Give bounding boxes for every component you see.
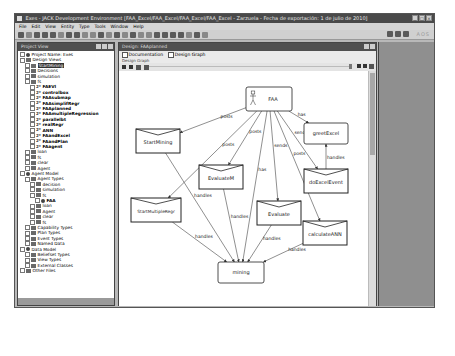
node-EvaluateM[interactable]: EvaluateM (199, 165, 243, 189)
expand-toggle-icon[interactable] (30, 139, 35, 144)
expand-toggle-icon[interactable] (25, 68, 30, 73)
menu-view[interactable]: View (45, 23, 56, 30)
expand-toggle-icon[interactable] (20, 52, 25, 57)
expand-toggle-icon[interactable] (30, 187, 35, 192)
node-greetExcel[interactable]: greetExcel (304, 123, 348, 144)
copy-icon[interactable] (66, 32, 72, 38)
export-icon[interactable] (369, 64, 374, 69)
expand-toggle-icon[interactable] (30, 133, 35, 138)
expand-toggle-icon[interactable] (30, 90, 35, 95)
document-icon[interactable] (178, 32, 184, 38)
save-icon[interactable] (34, 32, 40, 38)
edge-posts[interactable] (180, 108, 246, 133)
expand-toggle-icon[interactable] (20, 268, 25, 273)
expand-toggle-icon[interactable] (25, 263, 30, 268)
paste-icon[interactable] (74, 32, 80, 38)
compile-icon[interactable] (98, 32, 104, 38)
design-graph-checkbox[interactable] (168, 52, 174, 58)
expand-toggle-icon[interactable] (20, 247, 25, 252)
back-icon[interactable] (138, 32, 144, 38)
documentation-checkbox[interactable] (122, 52, 128, 58)
redo-icon[interactable] (90, 32, 96, 38)
menu-help[interactable]: Help (133, 23, 143, 30)
zoom-slider[interactable] (149, 66, 350, 67)
open-icon[interactable] (26, 32, 32, 38)
edge-handles[interactable] (248, 225, 272, 262)
debug-icon[interactable] (114, 32, 120, 38)
search-icon[interactable] (170, 32, 176, 38)
perspective-agent-icon[interactable] (387, 31, 393, 37)
design-graph-diagram[interactable]: postspostshassendssendspostshaspostshand… (119, 71, 369, 306)
expand-toggle-icon[interactable] (25, 225, 30, 230)
expand-toggle-icon[interactable] (30, 112, 35, 117)
cut-icon[interactable] (58, 32, 64, 38)
connector-icon[interactable] (129, 65, 133, 69)
expand-toggle-icon[interactable] (25, 160, 30, 165)
expand-toggle-icon[interactable] (25, 63, 30, 68)
panel-minimize-icon[interactable] (96, 44, 101, 49)
design-graph-option[interactable]: Design Graph (168, 51, 205, 58)
menu-tools[interactable]: Tools (94, 23, 105, 30)
settings-icon[interactable] (194, 32, 200, 38)
expand-toggle-icon[interactable] (30, 220, 35, 225)
tree-item[interactable]: Other Files (20, 268, 114, 273)
expand-toggle-icon[interactable] (25, 74, 30, 79)
expand-toggle-icon[interactable] (25, 79, 30, 84)
node-Evaluate[interactable]: Evaluate (257, 201, 301, 225)
expand-toggle-icon[interactable] (30, 204, 35, 209)
menu-entity[interactable]: Entity (61, 23, 74, 30)
panel-close-icon[interactable] (108, 44, 113, 49)
agent-icon[interactable] (154, 32, 160, 38)
perspective-debug-icon[interactable] (403, 31, 409, 37)
edge-sends[interactable] (270, 111, 278, 201)
design-restore-icon[interactable] (364, 44, 369, 49)
scrollbar-thumb[interactable] (370, 73, 375, 155)
zoom-slider-thumb[interactable] (349, 64, 352, 69)
expand-toggle-icon[interactable] (30, 182, 35, 187)
menu-edit[interactable]: Edit (32, 23, 41, 30)
forward-icon[interactable] (146, 32, 152, 38)
edge-handles[interactable] (172, 222, 226, 262)
expand-toggle-icon[interactable] (20, 58, 25, 63)
page-icon[interactable] (186, 32, 192, 38)
text-tool-icon[interactable] (357, 64, 361, 68)
node-mining[interactable]: mining (218, 262, 264, 283)
design-canvas[interactable]: postspostshassendssendspostshaspostshand… (119, 71, 369, 306)
expand-toggle-icon[interactable] (25, 236, 30, 241)
build-icon[interactable] (130, 32, 136, 38)
expand-toggle-icon[interactable] (25, 177, 30, 182)
link-tool-icon[interactable] (363, 64, 367, 68)
stop-icon[interactable] (122, 32, 128, 38)
documentation-option[interactable]: Documentation (122, 51, 163, 58)
expand-toggle-icon[interactable] (30, 117, 35, 122)
expand-toggle-icon[interactable] (30, 209, 35, 214)
expand-toggle-icon[interactable] (35, 198, 40, 203)
new-project-icon[interactable] (18, 32, 24, 38)
expand-toggle-icon[interactable] (30, 101, 35, 106)
expand-toggle-icon[interactable] (25, 155, 30, 160)
expand-toggle-icon[interactable] (25, 241, 30, 246)
node-doExcelEvent[interactable]: doExcelEvent (304, 169, 348, 193)
menu-type[interactable]: Type (79, 23, 89, 30)
expand-toggle-icon[interactable] (25, 258, 30, 263)
expand-toggle-icon[interactable] (25, 252, 30, 257)
edit-pencil-icon[interactable] (395, 31, 401, 37)
maximize-button[interactable]: □ (419, 15, 425, 21)
expand-toggle-icon[interactable] (30, 214, 35, 219)
expand-toggle-icon[interactable] (30, 106, 35, 111)
node-FAA[interactable]: FAA (246, 87, 292, 111)
close-button[interactable]: × (426, 15, 432, 21)
node-calculateANN[interactable]: calculateANN (303, 221, 347, 245)
menu-window[interactable]: Window (111, 23, 129, 30)
warning-icon[interactable] (202, 32, 208, 38)
expand-toggle-icon[interactable] (20, 171, 25, 176)
delete-icon[interactable] (136, 65, 141, 70)
undo-icon[interactable] (82, 32, 88, 38)
project-tree[interactable]: Project Name: ExesDesign ViewsStartMinin… (18, 51, 114, 274)
minimize-button[interactable]: _ (412, 15, 418, 21)
expand-toggle-icon[interactable] (30, 95, 35, 100)
remove-icon[interactable] (50, 32, 56, 38)
edge-handles[interactable] (224, 189, 239, 262)
node-StartMining[interactable]: StartMining (136, 129, 180, 153)
expand-toggle-icon[interactable] (30, 128, 35, 133)
